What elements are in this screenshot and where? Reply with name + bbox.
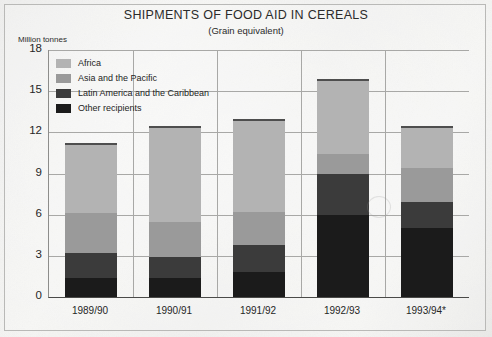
bar-1990-91[interactable]	[149, 126, 201, 298]
x-axis-tick-label: 1990/91	[129, 305, 219, 316]
bar-1992-93[interactable]	[317, 79, 369, 297]
bar-segment[interactable]	[401, 126, 453, 169]
bar-segment[interactable]	[233, 245, 285, 272]
y-axis-tick-label: 12	[4, 124, 42, 136]
bar-1989-90[interactable]	[65, 143, 117, 297]
bar-segment[interactable]	[317, 154, 369, 173]
category-separator-line	[301, 50, 302, 297]
bar-segment[interactable]	[65, 253, 117, 278]
bar-segment[interactable]	[149, 126, 201, 222]
bar-segment[interactable]	[233, 272, 285, 297]
legend-swatch-icon	[56, 89, 71, 98]
y-axis-tick-label: 9	[4, 166, 42, 178]
bar-segment[interactable]	[149, 257, 201, 278]
bar-1991-92[interactable]	[233, 119, 285, 297]
bar-segment[interactable]	[401, 202, 453, 228]
gridline	[49, 50, 469, 51]
bar-segment[interactable]	[65, 143, 117, 213]
legend-item[interactable]: Latin America and the Caribbean	[56, 86, 246, 100]
bar-segment[interactable]	[149, 278, 201, 297]
legend-item-label: Asia and the Pacific	[78, 73, 157, 83]
legend-swatch-icon	[56, 59, 71, 68]
legend-item-label: Africa	[78, 58, 101, 68]
legend-swatch-icon	[56, 104, 71, 113]
x-axis-tick-label: 1992/93	[297, 305, 387, 316]
bar-segment[interactable]	[233, 119, 285, 212]
category-separator-line	[385, 50, 386, 297]
bar-1993-94-[interactable]	[401, 126, 453, 298]
bar-segment[interactable]	[317, 174, 369, 215]
bar-segment[interactable]	[317, 215, 369, 297]
legend: AfricaAsia and the PacificLatin America …	[56, 56, 246, 116]
bar-segment[interactable]	[317, 79, 369, 154]
bar-segment[interactable]	[65, 278, 117, 297]
bar-segment[interactable]	[401, 168, 453, 202]
bar-segment[interactable]	[401, 228, 453, 297]
y-axis-tick-label: 3	[4, 248, 42, 260]
legend-swatch-icon	[56, 74, 71, 83]
x-axis-tick-label: 1989/90	[45, 305, 135, 316]
y-axis-tick-label: 18	[4, 42, 42, 54]
legend-item[interactable]: Other recipients	[56, 101, 246, 115]
y-axis-tick-label: 0	[4, 289, 42, 301]
chart-title: SHIPMENTS OF FOOD AID IN CEREALS	[0, 8, 492, 22]
chart-subtitle: (Grain equivalent)	[0, 25, 492, 36]
legend-item[interactable]: Africa	[56, 56, 246, 70]
legend-item[interactable]: Asia and the Pacific	[56, 71, 246, 85]
legend-item-label: Latin America and the Caribbean	[78, 88, 209, 98]
y-axis-tick-label: 15	[4, 83, 42, 95]
x-axis-tick-label: 1993/94*	[381, 305, 471, 316]
legend-item-label: Other recipients	[78, 103, 142, 113]
y-axis-tick-label: 6	[4, 207, 42, 219]
bar-segment[interactable]	[65, 213, 117, 253]
bar-segment[interactable]	[233, 212, 285, 245]
x-axis-tick-label: 1991/92	[213, 305, 303, 316]
chart: SHIPMENTS OF FOOD AID IN CEREALS (Grain …	[0, 0, 492, 337]
bar-segment[interactable]	[149, 222, 201, 258]
